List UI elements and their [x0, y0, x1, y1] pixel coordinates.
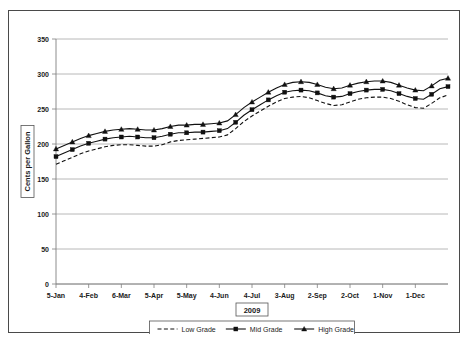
series-mid-grade: [54, 85, 450, 159]
y-tick-label: 50: [41, 246, 49, 253]
y-tick-label: 200: [37, 141, 49, 148]
data-point-marker: [299, 88, 303, 92]
x-tick-label: 1-Nov: [373, 292, 393, 299]
x-tick-label: 4-Jun: [210, 292, 229, 299]
data-point-marker: [446, 85, 450, 89]
y-axis-title-label: Cents per Gallon: [23, 131, 32, 191]
legend-item-label: High Grade: [318, 326, 354, 334]
data-point-marker: [136, 135, 140, 139]
data-point-marker: [348, 92, 352, 96]
legend-swatch-marker: [234, 327, 238, 331]
series-high-grade: [53, 76, 450, 151]
data-point-marker: [234, 120, 238, 124]
data-point-marker: [315, 91, 319, 95]
data-point-marker: [185, 131, 189, 135]
data-point-marker: [217, 129, 221, 133]
chart-legend: Low GradeMid GradeHigh Grade: [150, 321, 355, 334]
data-point-marker: [430, 92, 434, 96]
chart-frame: 050100150200250300350 5-Jan4-Feb6-Mar5-A…: [8, 10, 460, 333]
x-tick-label: 5-May: [177, 292, 197, 300]
y-tick-label: 350: [37, 36, 49, 43]
data-point-marker: [249, 99, 254, 104]
y-tick-label: 250: [37, 106, 49, 113]
data-point-marker: [168, 132, 172, 136]
data-point-marker: [397, 92, 401, 96]
data-series-group: [53, 76, 450, 165]
x-tick-label: 5-Jan: [47, 292, 65, 299]
data-point-marker: [103, 137, 107, 141]
series-line: [56, 78, 448, 149]
x-tick-label: 3-Aug: [275, 292, 295, 300]
y-axis-title: Cents per Gallon: [21, 126, 34, 198]
x-tick-label: 2-Oct: [341, 292, 360, 299]
data-point-marker: [445, 76, 450, 81]
y-tick-label: 0: [45, 281, 49, 288]
data-point-marker: [152, 136, 156, 140]
data-point-marker: [201, 130, 205, 134]
x-axis-tickmarks: [56, 284, 415, 288]
x-tick-label: 5-Apr: [145, 292, 164, 300]
legend-item-label: Low Grade: [182, 326, 216, 333]
x-tick-label: 4-Feb: [79, 292, 98, 299]
data-point-marker: [54, 155, 58, 159]
y-axis-tick-labels: 050100150200250300350: [37, 36, 49, 288]
x-tick-label: 6-Mar: [112, 292, 131, 299]
y-tick-label: 300: [37, 71, 49, 78]
y-tick-label: 100: [37, 211, 49, 218]
y-tick-label: 150: [37, 176, 49, 183]
x-tick-label: 1-Dec: [406, 292, 425, 299]
data-point-marker: [87, 141, 91, 145]
data-point-marker: [250, 108, 254, 112]
chart-area: 050100150200250300350 5-Jan4-Feb6-Mar5-A…: [9, 11, 461, 334]
line-chart: 050100150200250300350 5-Jan4-Feb6-Mar5-A…: [9, 11, 461, 334]
series-line: [56, 87, 448, 157]
data-point-marker: [332, 95, 336, 99]
axis-lines: [56, 39, 448, 284]
data-point-marker: [381, 87, 385, 91]
data-point-marker: [283, 90, 287, 94]
x-axis-title-label: 2009: [244, 306, 261, 315]
legend-item-label: Mid Grade: [250, 326, 283, 333]
x-axis-title: 2009: [236, 303, 268, 316]
data-point-marker: [119, 135, 123, 139]
x-axis-tick-labels: 5-Jan4-Feb6-Mar5-Apr5-May4-Jun4-Jul3-Aug…: [47, 292, 425, 300]
data-point-marker: [364, 88, 368, 92]
data-point-marker: [266, 98, 270, 102]
data-point-marker: [266, 90, 271, 95]
x-tick-label: 4-Jul: [244, 292, 260, 299]
x-tick-label: 2-Sep: [308, 292, 327, 300]
data-point-marker: [413, 97, 417, 101]
gridlines-group: [52, 39, 448, 284]
data-point-marker: [70, 148, 74, 152]
